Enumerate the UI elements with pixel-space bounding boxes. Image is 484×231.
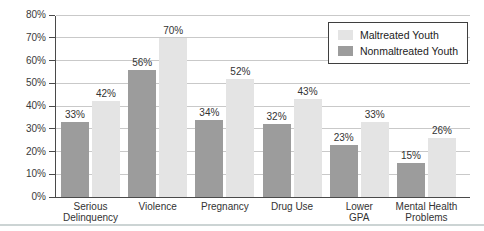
y-axis-tick [49, 60, 55, 61]
bar-value-label: 15% [401, 150, 421, 161]
category-label: Drug Use [271, 201, 313, 212]
bar-value-label: 52% [230, 66, 250, 77]
legend: Maltreated YouthNonmaltreated Youth [328, 22, 468, 64]
legend-label: Nonmaltreated Youth [360, 45, 458, 57]
y-axis-tick [49, 83, 55, 84]
category-label: Pregnancy [201, 201, 249, 212]
category-label: LowerGPA [346, 201, 373, 223]
bar-chart-figure: 33%42%SeriousDelinquency56%70%Violence34… [0, 0, 484, 231]
bar-value-label: 32% [267, 111, 287, 122]
bar-group: 56%70%Violence [128, 16, 187, 197]
y-axis-tick [49, 37, 55, 38]
bar-value-label: 56% [132, 57, 152, 68]
legend-swatch [338, 46, 353, 56]
bar-nonmaltreated-youth [263, 124, 291, 197]
bar-value-label: 26% [432, 125, 452, 136]
bar-nonmaltreated-youth [330, 145, 358, 197]
bar-nonmaltreated-youth [128, 70, 156, 197]
y-axis-tick-label: 20% [26, 147, 46, 157]
y-axis-tick-label: 40% [26, 101, 46, 111]
y-axis-tick-label: 10% [26, 169, 46, 179]
y-axis-tick [49, 128, 55, 129]
legend-entry: Nonmaltreated Youth [338, 45, 458, 57]
bar-maltreated-youth [361, 122, 389, 197]
category-label-line: Violence [139, 201, 177, 212]
bar-nonmaltreated-youth [397, 163, 425, 197]
bar-group: 33%42%SeriousDelinquency [61, 16, 120, 197]
category-label: SeriousDelinquency [63, 201, 118, 223]
bar-maltreated-youth [294, 99, 322, 197]
legend-entry: Maltreated Youth [338, 29, 458, 41]
bar-nonmaltreated-youth [195, 120, 223, 197]
y-axis-tick [49, 197, 55, 198]
bar-maltreated-youth [226, 79, 254, 197]
bar-value-label: 33% [365, 109, 385, 120]
legend-label: Maltreated Youth [360, 29, 439, 41]
bar-value-label: 70% [163, 25, 183, 36]
category-label: Violence [139, 201, 177, 212]
bar-wrap: 32% [263, 16, 291, 197]
category-label-line: Delinquency [63, 212, 118, 223]
y-axis-tick-label: 30% [26, 124, 46, 134]
bar-wrap: 43% [294, 16, 322, 197]
bar-wrap: 52% [226, 16, 254, 197]
bar-wrap: 42% [92, 16, 120, 197]
bar-group: 32%43%Drug Use [263, 16, 322, 197]
y-axis-tick-label: 70% [26, 33, 46, 43]
bar-wrap: 56% [128, 16, 156, 197]
y-axis-tick [49, 15, 55, 16]
category-label-line: Lower [346, 201, 373, 212]
bar-maltreated-youth [92, 101, 120, 197]
bar-value-label: 23% [334, 132, 354, 143]
y-axis-tick [49, 106, 55, 107]
y-axis-tick [49, 151, 55, 152]
category-label-line: Mental Health [396, 201, 458, 212]
bar-wrap: 33% [61, 16, 89, 197]
bar-value-label: 43% [298, 86, 318, 97]
y-axis-tick-label: 50% [26, 78, 46, 88]
bar-wrap: 34% [195, 16, 223, 197]
bar-wrap: 70% [159, 16, 187, 197]
bar-maltreated-youth [159, 38, 187, 197]
category-label-line: Problems [396, 212, 458, 223]
legend-swatch [338, 30, 353, 40]
bar-value-label: 34% [199, 107, 219, 118]
bar-value-label: 42% [96, 88, 116, 99]
category-label-line: Pregnancy [201, 201, 249, 212]
bar-maltreated-youth [428, 138, 456, 197]
y-axis-tick [49, 174, 55, 175]
y-axis-tick-label: 0% [32, 192, 46, 202]
bar-value-label: 33% [65, 109, 85, 120]
category-label-line: Drug Use [271, 201, 313, 212]
category-label: Mental HealthProblems [396, 201, 458, 223]
bar-group: 34%52%Pregnancy [195, 16, 254, 197]
category-label-line: Serious [63, 201, 118, 212]
bottom-rule [0, 224, 484, 226]
y-axis-tick-label: 80% [26, 10, 46, 20]
bar-nonmaltreated-youth [61, 122, 89, 197]
y-axis-tick-label: 60% [26, 56, 46, 66]
category-label-line: GPA [346, 212, 373, 223]
